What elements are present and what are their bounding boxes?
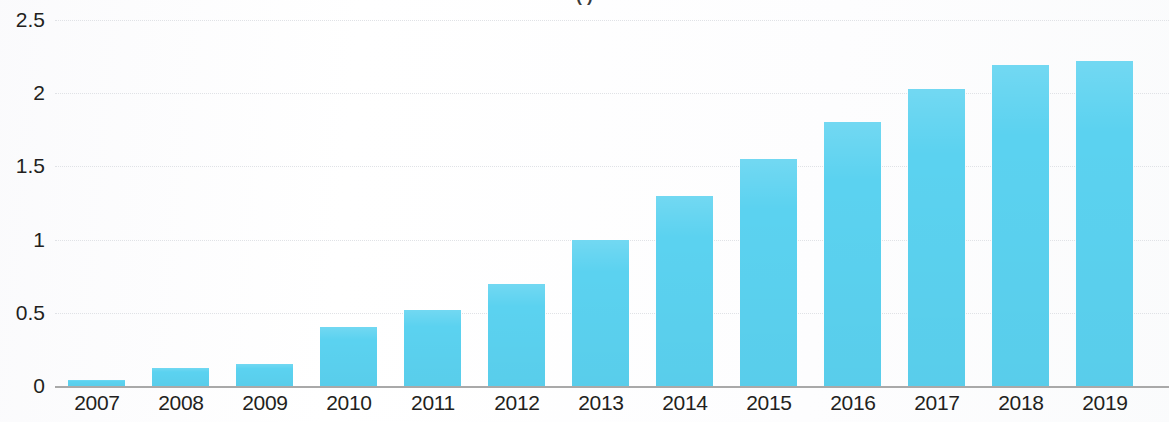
x-axis-tick-label: 2018: [979, 391, 1063, 415]
bar[interactable]: [572, 240, 629, 386]
x-axis-tick-label: 2009: [223, 391, 307, 415]
bar-chart-figure: ( ) 00.511.522.5 20072008200920102011201…: [0, 0, 1169, 422]
y-axis-tick-label: 1: [33, 228, 45, 252]
x-axis-tick-label: 2011: [391, 391, 475, 415]
bar-group[interactable]: [559, 0, 643, 422]
y-axis-tick-label: 2.5: [16, 8, 45, 32]
x-axis-tick-label: 2014: [643, 391, 727, 415]
x-axis-tick-label: 2013: [559, 391, 643, 415]
y-axis-tick-label: 0.5: [16, 301, 45, 325]
x-axis-tick-label: 2017: [895, 391, 979, 415]
y-axis-tick-label: 1.5: [16, 154, 45, 178]
bar[interactable]: [68, 380, 125, 386]
bar-group[interactable]: [307, 0, 391, 422]
bar-group[interactable]: [55, 0, 139, 422]
bar[interactable]: [740, 159, 797, 386]
bar[interactable]: [1076, 61, 1133, 386]
bar[interactable]: [320, 327, 377, 386]
bar-group[interactable]: [643, 0, 727, 422]
x-axis-tick-label: 2015: [727, 391, 811, 415]
bar[interactable]: [992, 65, 1049, 386]
bar[interactable]: [908, 89, 965, 386]
chart-title: ( ): [0, 0, 1169, 5]
bar-group[interactable]: [1063, 0, 1147, 422]
bar-group[interactable]: [475, 0, 559, 422]
bar[interactable]: [236, 364, 293, 386]
bars-layer: 2007200820092010201120122013201420152016…: [55, 0, 1169, 422]
x-axis-tick-label: 2010: [307, 391, 391, 415]
y-axis-tick-label: 2: [33, 81, 45, 105]
y-axis: 00.511.522.5: [0, 0, 55, 422]
x-axis-tick-label: 2012: [475, 391, 559, 415]
bar[interactable]: [152, 368, 209, 386]
bar[interactable]: [488, 284, 545, 386]
x-axis-tick-label: 2016: [811, 391, 895, 415]
bar[interactable]: [656, 196, 713, 386]
bar-group[interactable]: [895, 0, 979, 422]
x-axis-tick-label: 2008: [139, 391, 223, 415]
bar-group[interactable]: [727, 0, 811, 422]
bar-group[interactable]: [979, 0, 1063, 422]
bar-group[interactable]: [223, 0, 307, 422]
bar[interactable]: [404, 310, 461, 386]
bar-group[interactable]: [139, 0, 223, 422]
bar-group[interactable]: [391, 0, 475, 422]
bar[interactable]: [824, 122, 881, 386]
y-axis-tick-label: 0: [33, 374, 45, 398]
bar-group[interactable]: [811, 0, 895, 422]
x-axis-tick-label: 2019: [1063, 391, 1147, 415]
x-axis-tick-label: 2007: [55, 391, 139, 415]
